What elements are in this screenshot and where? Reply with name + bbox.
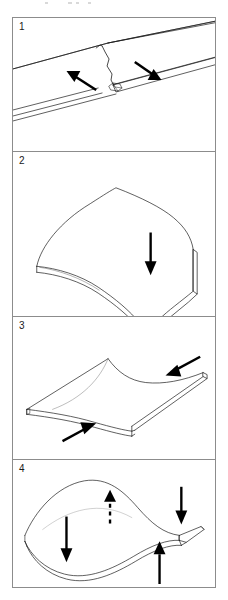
- panel-2-number: 2: [19, 155, 25, 166]
- panel-2: 2: [13, 151, 215, 316]
- panel-2-drawing: [13, 152, 215, 316]
- figure-frame: 1: [12, 17, 216, 588]
- panel-4-arrow-left-down: [61, 517, 73, 563]
- panel-2-arrow-down: [145, 233, 157, 276]
- scan-noise-marks: [0, 0, 228, 14]
- panel-4-drawing: [13, 460, 215, 588]
- panel-3-arrow-upper-right: [165, 357, 200, 377]
- panel-3-number: 3: [19, 320, 25, 331]
- panel-4: 4: [13, 459, 215, 588]
- panel-3-drawing: [13, 317, 215, 459]
- panel-4-arrow-center-up-dashed: [104, 490, 116, 524]
- panel-4-arrow-right-down: [175, 487, 187, 525]
- panel-1-drawing: [13, 18, 215, 151]
- figure-root: 1: [0, 0, 228, 600]
- panel-3-arrow-lower-left: [63, 422, 97, 441]
- panel-1-arrow-left: [66, 71, 96, 90]
- panel-4-number: 4: [19, 463, 25, 474]
- panel-1: 1: [13, 18, 215, 151]
- panel-1-number: 1: [19, 21, 25, 32]
- panel-1-arrow-right: [135, 62, 162, 80]
- panel-3: 3: [13, 316, 215, 459]
